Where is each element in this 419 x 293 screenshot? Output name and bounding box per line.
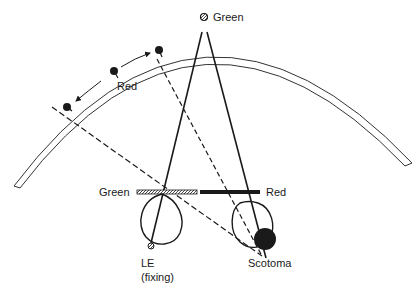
- perimeter-arc: [14, 57, 412, 188]
- projection-dashed-lines: [52, 59, 262, 256]
- arrow-left-icon: [76, 81, 101, 101]
- label-green-top: Green: [213, 11, 244, 24]
- visual-axis-lines: [151, 32, 266, 258]
- label-fixing: (fixing): [141, 271, 174, 284]
- label-le: LE: [141, 257, 154, 270]
- arrow-right-icon: [121, 53, 150, 67]
- label-red-filter: Red: [266, 186, 286, 199]
- diagram-canvas: [0, 0, 419, 293]
- red-filter-bar: [200, 190, 260, 194]
- label-red-arc: Red: [117, 80, 137, 93]
- scotoma-icon: [254, 228, 276, 250]
- right-eye: [232, 202, 276, 251]
- label-green-filter: Green: [99, 186, 130, 199]
- left-eye-fovea-icon: [148, 243, 154, 249]
- label-scotoma: Scotoma: [248, 257, 291, 270]
- green-filter-bar: [137, 190, 197, 194]
- green-target-icon: [201, 14, 208, 21]
